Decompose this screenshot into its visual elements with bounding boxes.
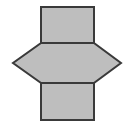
middle-square <box>41 43 94 83</box>
left-triangle-flap <box>13 43 41 83</box>
right-triangle-flap <box>94 43 121 83</box>
figure-canvas <box>0 0 129 127</box>
geometric-net-diagram <box>0 0 129 127</box>
bottom-square <box>41 83 94 120</box>
top-square <box>41 7 94 43</box>
